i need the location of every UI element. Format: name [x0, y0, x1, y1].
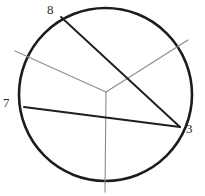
ray-down — [105, 92, 106, 192]
ray-upper-left — [15, 51, 106, 92]
vertex-label-8: 8 — [47, 3, 54, 16]
vertex-label-3: 3 — [186, 122, 193, 135]
chord-7-to-3 — [24, 107, 180, 127]
geometry-figure: 8 7 3 — [0, 0, 205, 196]
ray-upper-right — [106, 40, 188, 92]
geometry-canvas — [0, 0, 205, 196]
chord-8-to-3 — [61, 17, 180, 127]
vertex-label-7: 7 — [3, 96, 10, 109]
